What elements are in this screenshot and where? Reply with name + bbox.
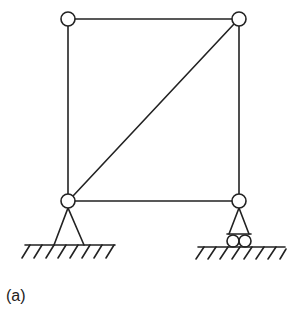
node-bottom-right <box>232 194 246 208</box>
node-top-left <box>61 12 75 26</box>
ground-hatching-right <box>196 247 286 259</box>
roller-wheel-right <box>239 235 251 247</box>
roller-support <box>196 208 286 259</box>
ground-hatching-left <box>22 245 114 258</box>
member-diagonal <box>73 24 234 196</box>
roller-wheel-left <box>227 235 239 247</box>
truss-diagram <box>0 0 301 315</box>
node-bottom-left <box>61 194 75 208</box>
node-top-right <box>232 12 246 26</box>
pin-support <box>22 208 115 258</box>
figure-caption: (a) <box>6 287 26 305</box>
